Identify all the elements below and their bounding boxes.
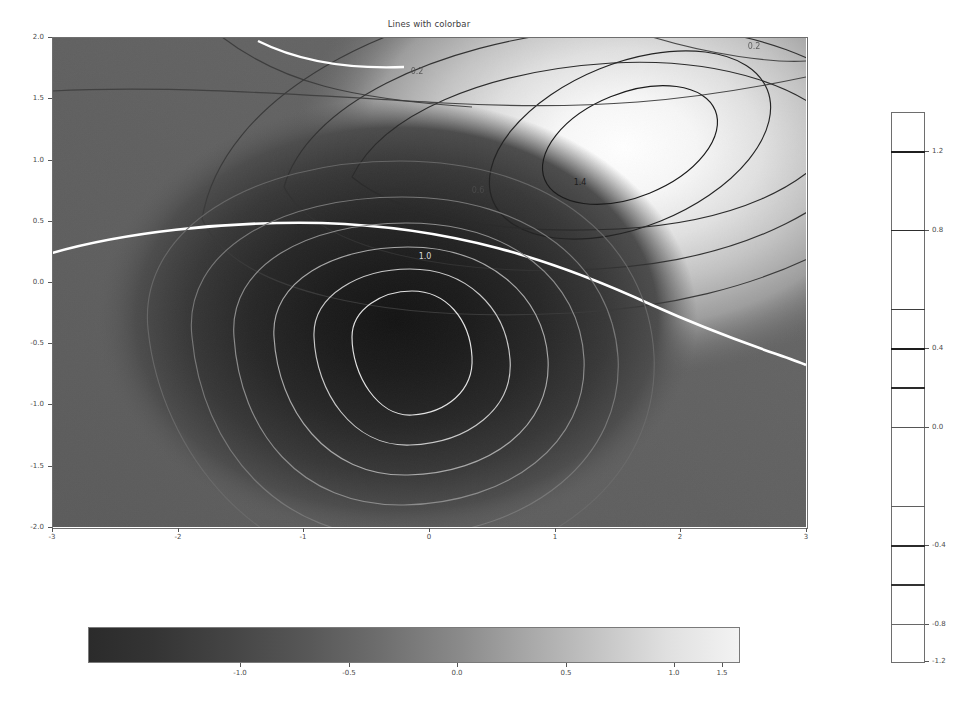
y-tick-label: -1.5: [10, 462, 44, 470]
x-tick-label: -1: [300, 533, 307, 541]
image-colorbar[interactable]: -1.0 -0.5 0.0 0.5 1.0 1.5: [88, 627, 740, 663]
colorbar-tick-mark: [566, 663, 567, 667]
colorbar-tick-mark: [925, 545, 929, 546]
x-tick-mark: [178, 528, 179, 532]
colorbar-tick-mark: [925, 230, 929, 231]
colorbar-tick-mark: [925, 624, 929, 625]
y-tick-mark: [48, 282, 52, 283]
colorbar-tick-label: -1.0: [233, 669, 247, 677]
colorbar-tick-label: 1.2: [932, 147, 943, 155]
y-tick-label: 0.5: [10, 217, 44, 225]
y-tick-label: -0.5: [10, 339, 44, 347]
colorbar-level-line: [891, 584, 925, 586]
x-tick-mark: [303, 528, 304, 532]
y-tick-label: 1.5: [10, 94, 44, 102]
colorbar-level-line: [891, 309, 925, 310]
y-tick-mark: [48, 466, 52, 467]
y-tick-label: -2.0: [10, 523, 44, 531]
colorbar-level-line: [891, 506, 925, 507]
colorbar-level-line: [891, 348, 925, 350]
x-tick-label: 0: [427, 533, 431, 541]
colorbar-tick-mark: [240, 663, 241, 667]
x-tick-label: -3: [49, 533, 56, 541]
y-tick-label: 2.0: [10, 33, 44, 41]
y-tick-mark: [48, 343, 52, 344]
colorbar-tick-label: -1.2: [932, 657, 946, 665]
y-tick-label: 1.0: [10, 156, 44, 164]
colorbar-tick-label: 0.0: [932, 423, 943, 431]
y-tick-label: -1.0: [10, 400, 44, 408]
colorbar-level-line: [891, 151, 925, 153]
colorbar-level-line: [891, 427, 925, 428]
colorbar-tick-mark: [925, 427, 929, 428]
x-tick-label: 3: [804, 533, 808, 541]
colorbar-level-line: [891, 387, 925, 389]
y-tick-mark: [48, 160, 52, 161]
colorbar-tick-mark: [722, 663, 723, 667]
colorbar-level-line: [891, 545, 925, 547]
contour-lines-layer: [52, 37, 806, 527]
colorbar-tick-label: 0.0: [451, 669, 462, 677]
x-tick-label: 1: [553, 533, 557, 541]
page-title: Lines with colorbar: [52, 19, 806, 29]
colorbar-tick-mark: [349, 663, 350, 667]
x-tick-mark: [555, 528, 556, 532]
y-tick-mark: [48, 221, 52, 222]
x-tick-mark: [680, 528, 681, 532]
x-tick-mark: [429, 528, 430, 532]
colorbar-level-line: [891, 230, 925, 231]
colorbar-tick-mark: [925, 151, 929, 152]
x-tick-label: 2: [678, 533, 682, 541]
colorbar-tick-label: 0.8: [932, 226, 943, 234]
contour-lines-colorbar[interactable]: 1.2 0.8 0.4 0.0 -0.4 -0.8 -1.2: [891, 112, 925, 663]
colorbar-tick-label: 0.5: [560, 669, 571, 677]
colorbar-level-line: [891, 624, 925, 625]
y-tick-label: 0.0: [10, 278, 44, 286]
colorbar-tick-mark: [925, 661, 929, 662]
colorbar-tick-label: -0.4: [932, 541, 946, 549]
colorbar-tick-label: -0.5: [342, 669, 356, 677]
y-tick-mark: [48, 37, 52, 38]
x-tick-label: -2: [175, 533, 182, 541]
colorbar-tick-label: -0.8: [932, 620, 946, 628]
colorbar-tick-label: 1.5: [716, 669, 727, 677]
matplotlib-figure: Lines with colorbar: [0, 0, 973, 714]
colorbar-gradient: [88, 627, 740, 663]
y-tick-mark: [48, 98, 52, 99]
x-tick-mark: [52, 528, 53, 532]
colorbar-tick-label: 0.4: [932, 344, 943, 352]
colorbar-tick-mark: [674, 663, 675, 667]
contour-plot-axes[interactable]: [52, 37, 806, 527]
x-tick-mark: [806, 528, 807, 532]
colorbar-tick-mark: [925, 348, 929, 349]
colorbar-tick-mark: [457, 663, 458, 667]
colorbar-tick-label: 1.0: [668, 669, 679, 677]
y-tick-mark: [48, 404, 52, 405]
